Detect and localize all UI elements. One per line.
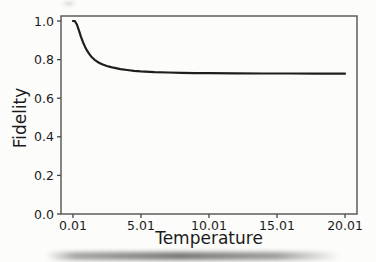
y-tick-label: 0.2 [34, 168, 54, 183]
y-axis-label: Fidelity [11, 88, 31, 149]
figure: 0.015.0110.0115.0120.010.00.20.40.60.81.… [0, 0, 376, 262]
x-axis-label: Temperature [61, 229, 357, 249]
photo-smudge-artifact [61, 0, 77, 7]
plot-spines [61, 16, 357, 214]
y-tick-label: 0.6 [34, 91, 54, 106]
y-tick-label: 0.4 [34, 129, 54, 144]
y-tick-label: 1.0 [34, 14, 54, 29]
y-tick-label: 0.0 [34, 207, 54, 222]
y-tick-label: 0.8 [34, 52, 54, 67]
photo-shadow-artifact [46, 252, 340, 260]
plot-area: 0.015.0110.0115.0120.010.00.20.40.60.81.… [0, 0, 376, 262]
fidelity-vs-temperature-curve [73, 21, 345, 74]
